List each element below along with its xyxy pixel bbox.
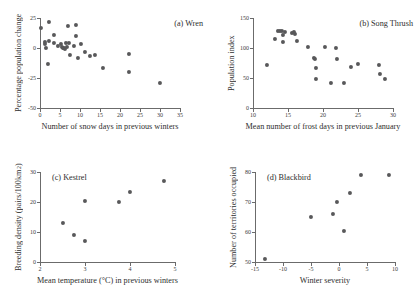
x-tick-label: 30 [157,112,163,118]
y-tick-label: 50 [243,75,249,81]
x-tick-label: 5 [174,266,177,272]
y-tick [250,108,253,109]
y-tick [250,78,253,79]
y-tick-label: -50 [28,105,36,111]
y-tick-label: 10 [30,229,36,235]
y-axis-title: Percentage population change [14,16,23,110]
x-axis-title: Mean number of frost days in previous Ja… [246,122,401,131]
y-axis-title: Number of territories occupied [229,170,238,264]
y-tick [250,18,253,19]
x-tick-label: 0 [39,112,42,118]
y-tick-label: 0 [33,259,36,265]
figure-four-panel-scatter-grid: 05101520253035250-25-50(a) WrenNumber of… [0,0,419,308]
y-tick [37,108,40,109]
x-tick-label: 20 [117,112,123,118]
y-tick [250,48,253,49]
y-tick [37,18,40,19]
x-tick-label: 2 [39,266,42,272]
y-axis-line [40,18,41,109]
x-tick-label: 15 [285,112,291,118]
x-tick-label: 35 [177,112,183,118]
panel-a-plot-frame: 05101520253035250-25-50(a) WrenNumber of… [0,0,209,154]
y-tick-label: 0 [246,105,249,111]
x-axis-line [255,262,396,263]
x-tick-label: 5 [59,112,62,118]
panel-d-plot-area [255,172,395,262]
y-tick-label: 25 [30,15,36,21]
x-tick-label: 3 [84,266,87,272]
y-tick [37,78,40,79]
panel-d-plot-frame: -15-10-5051050607080(d) BlackbirdWinter … [209,154,419,308]
panel-b-song-thrush: 1015202530050100150(b) Song ThrushMean n… [209,0,419,154]
y-axis-line [253,18,254,109]
x-tick-label: 25 [137,112,143,118]
y-tick [37,262,40,263]
panel-b-plot-area [253,18,393,108]
panel-title: (d) Blackbird [267,173,311,182]
x-axis-title: Number of snow days in previous winters [42,122,179,131]
y-tick-label: 80 [245,169,251,175]
x-tick-label: 20 [320,112,326,118]
x-tick-label: -5 [309,266,314,272]
panel-c-plot-frame: 23450102030(c) KestrelMean temperature (… [0,154,209,308]
y-tick-label: 60 [245,229,251,235]
x-tick-label: 10 [77,112,83,118]
y-axis-line [40,172,41,263]
panel-title: (a) Wren [174,19,203,28]
x-tick-label: 15 [97,112,103,118]
y-tick-label: 100 [240,45,249,51]
y-axis-title: Population index [227,16,236,110]
x-axis-title: Mean temperature (°C) in previous winter… [37,276,178,285]
panel-c-kestrel: 23450102030(c) KestrelMean temperature (… [0,154,209,308]
panel-d-blackbird: -15-10-5051050607080(d) BlackbirdWinter … [209,154,419,308]
panel-a-wren: 05101520253035250-25-50(a) WrenNumber of… [0,0,209,154]
x-tick-label: 25 [355,112,361,118]
y-tick-label: 50 [245,259,251,265]
panel-title: (b) Song Thrush [359,19,413,28]
y-tick-label: 30 [30,169,36,175]
y-tick-label: 20 [30,199,36,205]
x-tick-label: 30 [390,112,396,118]
y-tick-label: 0 [33,45,36,51]
y-tick [252,232,255,233]
x-tick-label: -15 [251,266,259,272]
x-tick-label: 0 [338,266,341,272]
x-tick-label: 10 [250,112,256,118]
y-tick [37,172,40,173]
y-axis-line [255,172,256,263]
y-tick [252,202,255,203]
panel-a-plot-area [40,18,180,108]
y-tick [37,48,40,49]
y-tick [252,262,255,263]
x-tick-label: 10 [392,266,398,272]
x-axis-title: Winter severity [300,276,350,285]
y-tick-label: -25 [28,75,36,81]
x-tick-label: 5 [366,266,369,272]
y-tick [37,232,40,233]
x-axis-line [40,262,176,263]
panel-title: (c) Kestrel [52,173,87,182]
y-tick [252,172,255,173]
y-tick-label: 150 [240,15,249,21]
y-axis-title: Breeding density (pairs/100km2) [14,170,23,264]
panel-b-plot-frame: 1015202530050100150(b) Song ThrushMean n… [209,0,419,154]
x-tick-label: 4 [129,266,132,272]
y-tick [37,202,40,203]
x-tick-label: -10 [279,266,287,272]
y-tick-label: 70 [245,199,251,205]
panel-c-plot-area [40,172,175,262]
